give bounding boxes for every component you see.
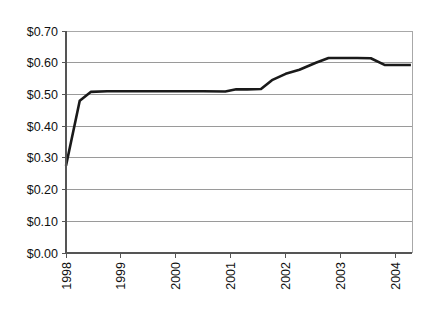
x-tick-label: 1998 [60, 262, 74, 290]
x-tick-label: 2003 [334, 262, 348, 290]
line-chart: $0.70$0.60$0.50$0.40$0.30$0.20$0.10$0.00… [0, 0, 431, 316]
y-tick-label: $0.50 [27, 88, 58, 102]
x-tick-label: 2001 [224, 262, 238, 290]
x-tick-label: 2000 [169, 262, 183, 290]
x-tick-label: 1999 [114, 262, 128, 290]
y-tick-label: $0.10 [27, 215, 58, 229]
y-tick-label: $0.30 [27, 151, 58, 165]
chart-canvas: $0.70$0.60$0.50$0.40$0.30$0.20$0.10$0.00… [0, 0, 431, 316]
y-tick-label: $0.20 [27, 183, 58, 197]
x-tick-label: 2002 [279, 262, 293, 290]
y-tick-label: $0.40 [27, 120, 58, 134]
plot-area-background [66, 31, 412, 253]
y-tick-label: $0.60 [27, 56, 58, 70]
y-tick-label: $0.00 [27, 247, 58, 261]
y-tick-label: $0.70 [27, 25, 58, 39]
x-tick-label: 2004 [389, 262, 403, 290]
